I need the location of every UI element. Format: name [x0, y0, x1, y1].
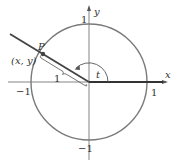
- y-axis-label: y: [93, 6, 100, 17]
- y-axis-arrow-icon: [87, 5, 91, 11]
- x-tick-neg1: −1: [16, 86, 31, 97]
- y-tick-1: 1: [81, 14, 87, 25]
- angle-label: t: [96, 69, 101, 80]
- angle-arc: [76, 63, 108, 82]
- point-coords-label: (x, y): [11, 55, 37, 66]
- angle-arrow-icon: [75, 65, 81, 70]
- radius-brace-tail: [40, 56, 41, 59]
- y-tick-neg1: −1: [78, 143, 93, 154]
- radius-label: 1: [54, 73, 60, 84]
- point-p: [41, 52, 45, 56]
- unit-circle-diagram: y x 1 −1 1 −1 P (x, y) 1 t: [0, 0, 180, 162]
- x-axis-label: x: [165, 69, 171, 80]
- x-tick-1: 1: [151, 87, 157, 98]
- point-p-label: P: [37, 41, 45, 52]
